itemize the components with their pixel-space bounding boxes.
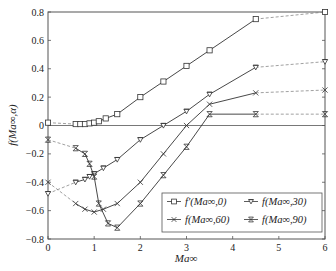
y-tick-label: −0.8 bbox=[26, 234, 44, 245]
series-segment bbox=[256, 62, 325, 68]
series-segment bbox=[163, 147, 186, 175]
y-tick-label: 0.8 bbox=[32, 7, 45, 18]
series-segment bbox=[187, 104, 210, 125]
series-segment bbox=[117, 140, 140, 160]
series-segment bbox=[48, 182, 76, 203]
series-segment bbox=[256, 90, 325, 93]
x-marker-icon bbox=[92, 209, 97, 214]
x-tick-label: 2 bbox=[138, 242, 143, 253]
hourglass-marker-icon bbox=[82, 151, 87, 156]
triangle-marker-icon bbox=[184, 109, 189, 114]
chart-container: 0123456−0.8−0.6−0.4−0.200.20.40.60.8 f′(… bbox=[0, 0, 336, 271]
legend-label: f(Ma∞,30) bbox=[262, 196, 307, 208]
y-tick-label: 0.6 bbox=[32, 35, 45, 46]
series-segment bbox=[163, 126, 186, 154]
series-segment bbox=[210, 19, 256, 50]
x-tick-label: 6 bbox=[323, 242, 328, 253]
series-segment bbox=[94, 177, 99, 204]
series-segment bbox=[187, 114, 210, 147]
legend-label: f(Ma∞,90) bbox=[262, 214, 307, 226]
square-marker-icon bbox=[45, 120, 50, 125]
series-segment bbox=[48, 140, 76, 149]
hourglass-marker-icon bbox=[73, 146, 78, 151]
series-segment bbox=[140, 82, 163, 98]
square-marker-icon bbox=[103, 116, 108, 121]
square-marker-icon bbox=[207, 48, 212, 53]
series-segment bbox=[103, 204, 117, 210]
x-tick-label: 4 bbox=[230, 242, 235, 253]
series-segment bbox=[187, 50, 210, 66]
hourglass-marker-icon bbox=[184, 144, 189, 149]
x-marker-icon bbox=[115, 201, 120, 206]
triangle-marker-icon bbox=[253, 65, 258, 70]
series-segment bbox=[108, 223, 117, 227]
square-marker-icon bbox=[172, 199, 177, 204]
x-tick-label: 0 bbox=[46, 242, 51, 253]
series-segment bbox=[163, 66, 186, 82]
x-tick-label: 1 bbox=[92, 242, 97, 253]
square-marker-icon bbox=[161, 79, 166, 84]
y-tick-label: −0.6 bbox=[26, 205, 44, 216]
series-segment bbox=[117, 182, 140, 203]
y-tick-label: 0 bbox=[39, 120, 44, 131]
series-segment bbox=[163, 111, 186, 125]
series-segment bbox=[256, 12, 325, 19]
x-marker-icon bbox=[161, 151, 166, 156]
series-segment bbox=[48, 182, 76, 193]
legend-label: f(Ma∞,60) bbox=[185, 214, 230, 226]
y-tick-label: 0.2 bbox=[32, 92, 45, 103]
line-chart: 0123456−0.8−0.6−0.4−0.200.20.40.60.8 f′(… bbox=[0, 0, 336, 271]
y-tick-label: −0.2 bbox=[26, 148, 44, 159]
legend: f′(Ma∞,0)f(Ma∞,30)f(Ma∞,60)f(Ma∞,90) bbox=[162, 193, 322, 232]
x-marker-icon bbox=[138, 180, 143, 185]
square-marker-icon bbox=[184, 63, 189, 68]
hourglass-marker-icon bbox=[87, 161, 92, 166]
x-marker-icon bbox=[73, 201, 78, 206]
square-marker-icon bbox=[138, 95, 143, 100]
hourglass-marker-icon bbox=[161, 173, 166, 178]
series-segment bbox=[117, 204, 140, 228]
series-segment bbox=[140, 175, 163, 203]
series-1 bbox=[45, 60, 327, 197]
y-tick-label: 0.4 bbox=[32, 63, 45, 74]
triangle-marker-icon bbox=[73, 180, 78, 185]
x-marker-icon bbox=[82, 207, 87, 212]
triangle-marker-icon bbox=[87, 174, 92, 179]
square-marker-icon bbox=[96, 119, 101, 124]
series-segment bbox=[210, 67, 256, 94]
square-marker-icon bbox=[253, 16, 258, 21]
hourglass-marker-icon bbox=[115, 225, 120, 230]
series-segment bbox=[48, 123, 76, 124]
y-tick-label: −0.4 bbox=[26, 177, 44, 188]
hourglass-marker-icon bbox=[105, 221, 110, 226]
square-marker-icon bbox=[322, 9, 327, 14]
hourglass-marker-icon bbox=[138, 201, 143, 206]
series-segment bbox=[117, 97, 140, 114]
series-segment bbox=[187, 94, 210, 111]
y-axis-label: f(Ma∞,α) bbox=[6, 104, 19, 146]
triangle-marker-icon bbox=[101, 166, 106, 171]
series-segment bbox=[85, 154, 90, 164]
x-tick-label: 5 bbox=[276, 242, 281, 253]
series-segment bbox=[140, 126, 163, 140]
series-segment bbox=[140, 154, 163, 182]
square-marker-icon bbox=[115, 112, 120, 117]
series-segment bbox=[210, 93, 256, 104]
x-axis-label: Ma∞ bbox=[174, 252, 198, 264]
triangle-marker-icon bbox=[115, 157, 120, 162]
triangle-marker-icon bbox=[45, 192, 50, 197]
legend-label: f′(Ma∞,0) bbox=[185, 196, 227, 208]
